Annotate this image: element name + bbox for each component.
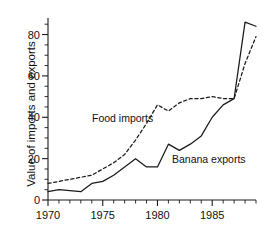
x-ticks-group bbox=[48, 200, 256, 206]
x-tick-label: 1985 bbox=[200, 209, 224, 221]
y-tick-label: 80 bbox=[8, 29, 40, 41]
series-group bbox=[48, 22, 256, 192]
series-label-food-imports: Food imports bbox=[92, 112, 153, 124]
y-tick-label: 20 bbox=[8, 153, 40, 165]
line-chart: Value of imports and exports 020406080 1… bbox=[0, 0, 278, 233]
series-label-banana-exports: Banana exports bbox=[172, 153, 246, 165]
series-line-banana-exports bbox=[48, 22, 256, 192]
y-tick-label: 40 bbox=[8, 111, 40, 123]
x-tick-label: 1975 bbox=[90, 209, 114, 221]
y-ticks-group bbox=[42, 24, 48, 200]
x-tick-label: 1980 bbox=[145, 209, 169, 221]
axes-group bbox=[48, 18, 256, 200]
y-tick-label: 60 bbox=[8, 70, 40, 82]
x-tick-label: 1970 bbox=[36, 209, 60, 221]
y-tick-label: 0 bbox=[8, 194, 40, 206]
